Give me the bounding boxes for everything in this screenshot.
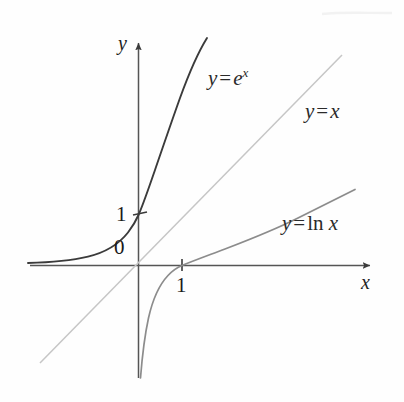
y-axis-label: y — [118, 33, 127, 53]
x-axis-tick-label-one: 1 — [176, 275, 187, 296]
label-line-equals: = — [314, 99, 330, 123]
plot-canvas — [0, 0, 404, 402]
label-exp-lhs: y — [208, 66, 217, 90]
label-log-lhs: y — [282, 211, 291, 235]
x-axis-label: x — [361, 272, 370, 292]
label-exp-equals: = — [217, 66, 233, 90]
curve-exponential — [28, 38, 207, 263]
curve-label-identity: y=x — [305, 101, 340, 122]
page-bleed-line — [322, 13, 392, 14]
label-line-rhs: x — [330, 99, 339, 123]
label-log-function: ln — [307, 211, 323, 235]
curve-label-logarithm: y=ln x — [282, 213, 338, 234]
label-log-argument: x — [329, 211, 338, 235]
origin-label-zero: 0 — [114, 237, 125, 258]
curve-identity — [40, 55, 342, 363]
label-log-equals: = — [291, 211, 307, 235]
curve-label-exponential: y=ex — [208, 68, 248, 89]
figure-graph-exp-log: y=ex y=x y=ln x y x 1 0 1 — [0, 0, 404, 402]
label-exp-base: e — [233, 66, 242, 90]
label-exp-exponent: x — [243, 65, 249, 80]
y-axis-tick-label-one: 1 — [116, 204, 127, 225]
label-line-lhs: y — [305, 99, 314, 123]
